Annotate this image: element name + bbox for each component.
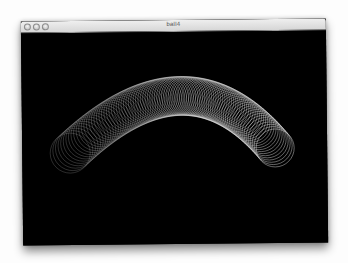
ball-outline [161, 76, 200, 115]
ball-outline [191, 81, 230, 120]
window-title: ball4 [21, 19, 326, 28]
ball-outline [159, 76, 198, 115]
app-window: ball4 [21, 18, 328, 245]
drawing-canvas[interactable] [21, 30, 328, 245]
screenshot-stage: ball4 [0, 0, 348, 263]
ball-trajectory-drawing [21, 30, 328, 245]
